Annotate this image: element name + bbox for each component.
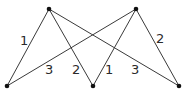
bipartite-graph: 1 2 3 3 1 2 <box>0 0 188 94</box>
edges <box>7 9 179 86</box>
node-b1 <box>5 84 10 89</box>
node-t1 <box>47 7 52 12</box>
node-t2 <box>134 7 139 12</box>
edge-t2-b2 <box>93 9 136 86</box>
edge-label-t1-b1: 1 <box>20 33 28 48</box>
nodes <box>5 7 182 89</box>
edge-label-t2-b1: 3 <box>45 62 53 77</box>
edge-t2-b3 <box>136 9 179 86</box>
edge-label-t2-b3: 2 <box>156 31 164 46</box>
edge-label-t1-b3: 3 <box>131 62 139 77</box>
edge-label-t1-b2: 2 <box>72 62 80 77</box>
edge-label-t2-b2: 1 <box>105 62 113 77</box>
edge-labels: 1 2 3 3 1 2 <box>20 31 164 77</box>
node-b2 <box>91 84 96 89</box>
node-b3 <box>177 84 182 89</box>
